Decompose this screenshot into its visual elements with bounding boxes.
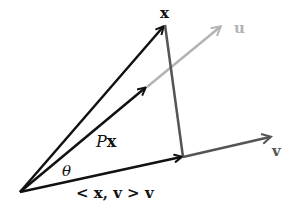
label-u: u xyxy=(234,19,245,37)
projection-diagram: x u v Px θ < x, v > v xyxy=(0,0,297,213)
label-x: x xyxy=(160,4,170,22)
label-inner-product: < x, v > v xyxy=(76,184,155,202)
label-px-p: P xyxy=(95,132,107,151)
label-px-x: x xyxy=(107,132,117,151)
perpendicular-line xyxy=(165,25,183,157)
vector-px xyxy=(20,88,145,192)
vector-u xyxy=(147,27,220,87)
label-theta: θ xyxy=(62,162,71,180)
label-v: v xyxy=(271,142,282,160)
vector-v xyxy=(183,137,270,157)
label-px: Px xyxy=(95,132,117,151)
vector-x xyxy=(20,27,163,192)
